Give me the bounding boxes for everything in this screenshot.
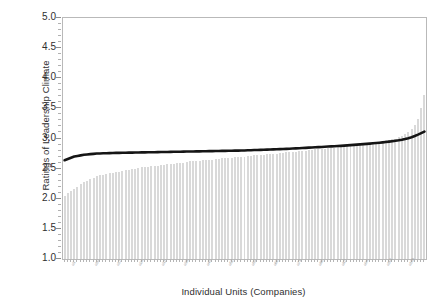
x-tick-mark	[330, 259, 331, 262]
x-tick-label: u66	[272, 259, 279, 267]
y-tick-minor	[58, 210, 61, 211]
x-tick-mark	[305, 259, 306, 262]
x-tick-label: u45	[205, 259, 212, 267]
x-tick-mark	[327, 259, 328, 262]
x-tick-mark	[314, 259, 315, 262]
y-tick-minor	[58, 23, 61, 24]
x-tick-label: u38	[182, 259, 189, 267]
x-tick-mark	[423, 259, 424, 262]
x-tick-mark	[131, 259, 132, 262]
x-tick-mark	[86, 259, 87, 262]
x-tick-mark	[372, 259, 373, 262]
x-tick-mark	[218, 259, 219, 262]
x-tick-mark	[192, 259, 193, 262]
x-tick-mark	[199, 259, 200, 262]
x-tick-mark	[311, 259, 312, 262]
y-tick-minor	[58, 65, 61, 66]
y-tick-mark	[56, 198, 61, 199]
x-tick-label: u59	[250, 259, 257, 267]
x-tick-mark	[359, 259, 360, 262]
y-tick-minor	[58, 29, 61, 30]
y-tick-minor	[58, 131, 61, 132]
y-tick-label: 2.5	[28, 163, 56, 173]
y-tick-minor	[58, 144, 61, 145]
y-tick-minor	[58, 41, 61, 42]
x-tick-mark	[64, 259, 65, 262]
y-tick-label: 5.0	[28, 12, 56, 22]
x-tick-mark	[202, 259, 203, 262]
y-tick-minor	[58, 246, 61, 247]
x-tick-mark	[244, 259, 245, 262]
y-tick-minor	[58, 113, 61, 114]
y-tick-minor	[58, 252, 61, 253]
y-tick-minor	[58, 162, 61, 163]
x-tick-label: u24	[137, 259, 144, 267]
x-tick-mark	[401, 259, 402, 262]
x-tick-mark	[67, 259, 68, 262]
x-tick-mark	[89, 259, 90, 262]
x-tick-label: u80	[317, 259, 324, 267]
y-tick-minor	[58, 59, 61, 60]
x-tick-mark	[240, 259, 241, 262]
y-tick-label: 3.0	[28, 133, 56, 143]
y-tick-minor	[58, 240, 61, 241]
y-tick-minor	[58, 125, 61, 126]
y-tick-minor	[58, 101, 61, 102]
x-tick-mark	[176, 259, 177, 262]
x-tick-mark	[333, 259, 334, 262]
x-tick-mark	[237, 259, 238, 262]
x-tick-label: u17	[115, 259, 122, 267]
x-tick-mark	[263, 259, 264, 262]
y-tick-minor	[58, 204, 61, 205]
y-tick-minor	[58, 35, 61, 36]
x-tick-mark	[353, 259, 354, 262]
y-tick-minor	[58, 83, 61, 84]
x-tick-mark	[288, 259, 289, 262]
y-tick-minor	[58, 192, 61, 193]
x-tick-mark	[221, 259, 222, 262]
x-tick-mark	[282, 259, 283, 262]
y-tick-mark	[56, 17, 61, 18]
y-tick-mark	[56, 168, 61, 169]
x-tick-mark	[105, 259, 106, 262]
x-tick-label: u87	[340, 259, 347, 267]
chart-figure: Ratings of Leadership Climate Individual…	[0, 0, 443, 305]
x-tick-mark	[266, 259, 267, 262]
x-tick-mark	[195, 259, 196, 262]
x-tick-mark	[308, 259, 309, 262]
x-tick-mark	[154, 259, 155, 262]
y-tick-minor	[58, 234, 61, 235]
x-tick-mark	[80, 259, 81, 262]
x-tick-mark	[378, 259, 379, 262]
x-tick-mark	[134, 259, 135, 262]
x-tick-mark	[337, 259, 338, 262]
x-tick-mark	[170, 259, 171, 262]
y-tick-mark	[56, 258, 61, 259]
y-tick-mark	[56, 138, 61, 139]
y-tick-mark	[56, 228, 61, 229]
x-tick-label: u52	[227, 259, 234, 267]
x-tick-mark	[179, 259, 180, 262]
x-tick-mark	[150, 259, 151, 262]
y-tick-label: 1.5	[28, 223, 56, 233]
x-tick-mark	[224, 259, 225, 262]
line-series	[63, 18, 426, 259]
x-tick-mark	[375, 259, 376, 262]
y-tick-minor	[58, 119, 61, 120]
x-tick-mark	[102, 259, 103, 262]
x-tick-mark	[350, 259, 351, 262]
y-tick-minor	[58, 180, 61, 181]
y-tick-label: 1.0	[28, 253, 56, 263]
y-tick-label: 4.5	[28, 42, 56, 52]
y-tick-mark	[56, 77, 61, 78]
y-tick-label: 2.0	[28, 193, 56, 203]
y-tick-mark	[56, 47, 61, 48]
y-tick-minor	[58, 95, 61, 96]
y-tick-minor	[58, 186, 61, 187]
x-tick-mark	[398, 259, 399, 262]
x-tick-mark	[215, 259, 216, 262]
y-tick-minor	[58, 71, 61, 72]
x-tick-label: u3	[70, 260, 76, 266]
x-tick-mark	[125, 259, 126, 262]
x-tick-mark	[420, 259, 421, 262]
